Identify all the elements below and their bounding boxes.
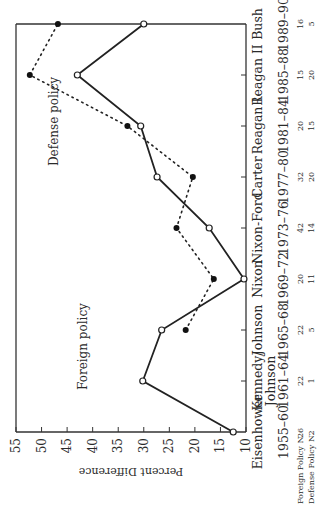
category-label: Reagan II <box>250 44 265 106</box>
foreign-policy-point <box>206 225 212 231</box>
foreign-policy-point <box>159 327 165 333</box>
period-label: 1977–80 <box>276 150 291 204</box>
n-row-label: Foreign Policy N <box>296 437 305 504</box>
category-label: Nixon-Ford <box>250 192 265 263</box>
n-value: 22 <box>296 325 305 335</box>
y-tick-label: 40 <box>86 438 100 453</box>
foreign-policy-point <box>140 378 146 384</box>
period-label: 1973–76 <box>276 201 291 255</box>
period-label: 1955–60 <box>276 405 291 459</box>
defense-policy-point <box>211 276 217 282</box>
foreign-policy-point <box>141 21 147 27</box>
n-value: 15 <box>296 70 305 80</box>
defense-policy-point <box>183 327 189 333</box>
foreign-policy-point <box>230 429 236 435</box>
period-label: 1989–90 <box>276 0 291 51</box>
n-value: 16 <box>296 19 305 29</box>
category-label: Nixon <box>250 260 265 298</box>
foreign-policy-line <box>77 24 244 432</box>
annotations: Foreign policyDefense policy <box>47 77 90 390</box>
n-value: 20 <box>307 172 316 182</box>
n-value: 15 <box>307 121 316 131</box>
n-value: 1 <box>307 378 316 383</box>
y-tick-label: 20 <box>188 438 202 453</box>
n-value: 22 <box>296 376 305 386</box>
n-value: 5 <box>307 21 316 26</box>
y-tick-label: 25 <box>162 438 176 453</box>
y-tick-label: 15 <box>213 438 227 453</box>
category-label: Johnson <box>250 305 265 358</box>
y-tick-label: 45 <box>60 438 74 453</box>
y-tick-label: 50 <box>35 438 49 453</box>
n-value: 20 <box>296 274 305 284</box>
n-value: 2 <box>307 430 316 435</box>
foreign-policy-annotation: Foreign policy <box>76 303 90 390</box>
n-value: 20 <box>296 121 305 131</box>
n-value: 32 <box>296 172 305 182</box>
y-axis-title: Percent Difference <box>79 465 184 478</box>
n-row-label: Defense Policy N <box>307 435 316 504</box>
defense-policy-point <box>173 225 179 231</box>
category-label: Reagan I <box>250 98 265 155</box>
n-table: Foreign Policy N262222204232201516Defens… <box>296 19 316 504</box>
category-label: Bush <box>250 8 265 40</box>
defense-policy-point <box>190 174 196 180</box>
y-tick-label: 30 <box>137 438 151 453</box>
x-axis: Eisenhower1955–60Kennedy/Johnson1961–64J… <box>241 0 291 469</box>
y-tick-label: 55 <box>9 438 23 453</box>
n-value: 5 <box>307 327 316 332</box>
category-label: Carter <box>250 156 265 197</box>
n-value: 14 <box>307 223 316 233</box>
y-axis: 10152025303540455055Percent Difference <box>9 427 253 478</box>
period-label: 1965–68 <box>276 303 291 357</box>
foreign-policy-point <box>74 72 80 78</box>
foreign-policy-point <box>241 276 247 282</box>
rotated-chart: 10152025303540455055Percent Difference E… <box>0 0 320 508</box>
n-value: 11 <box>307 274 316 284</box>
defense-policy-annotation: Defense policy <box>47 77 61 166</box>
period-label: 1969–72 <box>276 252 291 306</box>
period-label: 1985–88 <box>276 48 291 102</box>
n-value: 42 <box>296 223 305 233</box>
defense-policy-point <box>55 21 61 27</box>
defense-policy-point <box>27 72 33 78</box>
n-value: 20 <box>307 70 316 80</box>
defense-policy-line <box>30 24 214 330</box>
defense-policy-point <box>124 123 130 129</box>
period-label: 1981–84 <box>276 99 291 153</box>
period-label: 1961–64 <box>276 354 291 408</box>
n-value: 26 <box>296 428 305 438</box>
line-chart: 10152025303540455055Percent Difference E… <box>0 0 320 508</box>
y-tick-label: 35 <box>111 438 125 453</box>
foreign-policy-point <box>138 123 144 129</box>
foreign-policy-point <box>154 174 160 180</box>
